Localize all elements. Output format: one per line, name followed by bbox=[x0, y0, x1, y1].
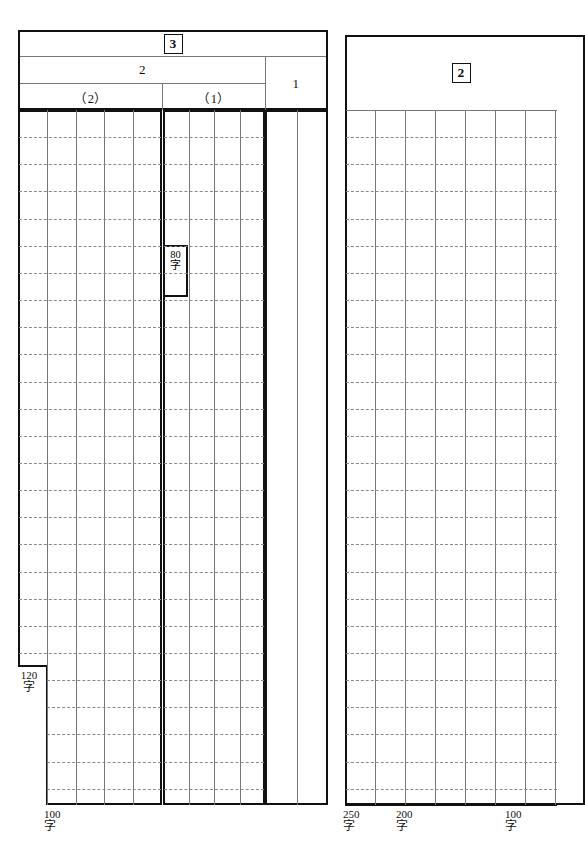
right-dot-17 bbox=[346, 572, 557, 573]
left-sub1-col-rule-1 bbox=[189, 110, 190, 805]
left-sub2-col-rule-4 bbox=[133, 110, 134, 805]
left-sub2-col-rule-1 bbox=[47, 110, 48, 805]
right-col-rule-2 bbox=[405, 110, 406, 805]
left-sub1-dot-9 bbox=[164, 354, 264, 355]
left-sub1-dot-14 bbox=[164, 490, 264, 491]
left-sub2-dot-17 bbox=[19, 572, 161, 573]
left-sub2-col-rule-3 bbox=[104, 110, 105, 805]
right-col-rule-5 bbox=[495, 110, 496, 805]
right-col-rule-3 bbox=[435, 110, 436, 805]
left-sub2-dot-24 bbox=[47, 762, 161, 763]
right-dot-21 bbox=[346, 680, 557, 681]
left-sub2-dot-21 bbox=[47, 680, 161, 681]
left-sub2-dot-18 bbox=[19, 599, 161, 600]
left-sub1-dot-15 bbox=[164, 517, 264, 518]
left-section-1-label: 1 bbox=[293, 76, 300, 92]
left-sub2-dot-15 bbox=[19, 517, 161, 518]
left-sub2-dot-16 bbox=[19, 544, 161, 545]
right-dot-9 bbox=[346, 354, 557, 355]
left-sub1-dot-11 bbox=[164, 409, 264, 410]
right-col-rule-6 bbox=[525, 110, 526, 805]
left-sub1-dot-8 bbox=[164, 327, 264, 328]
right-dot-23 bbox=[346, 734, 557, 735]
left-sub2-dot-13 bbox=[19, 463, 161, 464]
right-dot-1 bbox=[346, 137, 557, 138]
left-sub2-dot-3 bbox=[19, 191, 161, 192]
left-sub2-dot-2 bbox=[19, 164, 161, 165]
left-sub1-dot-10 bbox=[164, 382, 264, 383]
left-sub1-col-rule-2 bbox=[214, 110, 215, 805]
right-dot-8 bbox=[346, 327, 557, 328]
left-sub2-dot-1 bbox=[19, 137, 161, 138]
left-sub2-dot-6 bbox=[19, 273, 161, 274]
left-sub-1-label: （1） bbox=[197, 88, 231, 107]
left-sub1-dot-7 bbox=[164, 300, 264, 301]
left-sub2-dot-23 bbox=[47, 734, 161, 735]
left-sub2-dot-5 bbox=[19, 246, 161, 247]
left-section-1-label-cell: 1 bbox=[266, 57, 326, 110]
left-sub-1-label-cell: （1） bbox=[163, 84, 265, 110]
left-panel-question-number-cell: 3 bbox=[20, 32, 326, 56]
marker-120-ji: 120 字 bbox=[12, 670, 46, 693]
right-dot-4 bbox=[346, 219, 557, 220]
left-sub1-dot-16 bbox=[164, 544, 264, 545]
marker-200-ji: 200 字 bbox=[396, 809, 426, 832]
left-sub1-dot-19 bbox=[164, 626, 264, 627]
left-sub2-dot-4 bbox=[19, 219, 161, 220]
left-sub1-dot-17 bbox=[164, 572, 264, 573]
marker-80-ji-cell: 80 字 bbox=[163, 245, 188, 297]
left-sub1-dot-20 bbox=[164, 653, 264, 654]
marker-100-ji-right: 100 字 bbox=[505, 809, 535, 832]
left-sub2-dot-14 bbox=[19, 490, 161, 491]
left-sub2-dot-9 bbox=[19, 354, 161, 355]
left-sub1-dot-6 bbox=[164, 273, 264, 274]
left-sub1-dot-3 bbox=[164, 191, 264, 192]
right-dot-15 bbox=[346, 517, 557, 518]
marker-250-ji: 250 字 bbox=[343, 809, 373, 832]
left-sub2-dot-7 bbox=[19, 300, 161, 301]
left-grid-step-rule bbox=[18, 665, 48, 668]
left-sub2-dot-12 bbox=[19, 436, 161, 437]
left-sub-2-label: （2） bbox=[74, 88, 108, 107]
left-sub2-dot-22 bbox=[47, 707, 161, 708]
left-sub1-dot-2 bbox=[164, 164, 264, 165]
left-sub2-dot-11 bbox=[19, 409, 161, 410]
left-sub1-dot-1 bbox=[164, 137, 264, 138]
left-sub1-dot-21 bbox=[164, 680, 264, 681]
right-dot-24 bbox=[346, 762, 557, 763]
left-sub1-dot-22 bbox=[164, 707, 264, 708]
right-dot-11 bbox=[346, 409, 557, 410]
right-dot-5 bbox=[346, 246, 557, 247]
marker-80-ji-unit: 字 bbox=[170, 260, 181, 272]
right-panel-question-number-cell: 2 bbox=[347, 37, 575, 109]
left-grid-sub2-upper bbox=[18, 110, 162, 667]
marker-250-ji-unit: 字 bbox=[343, 820, 373, 832]
left-section-2-label-cell: 2 bbox=[20, 57, 265, 83]
left-sub1-dot-18 bbox=[164, 599, 264, 600]
left-sub2-col-rule-2 bbox=[76, 110, 77, 805]
left-sub2-dot-10 bbox=[19, 382, 161, 383]
marker-200-ji-unit: 字 bbox=[396, 820, 426, 832]
left-sub1-dot-12 bbox=[164, 436, 264, 437]
left-sub1-dot-13 bbox=[164, 463, 264, 464]
right-dot-3 bbox=[346, 191, 557, 192]
marker-100-ji-left: 100 字 bbox=[44, 809, 74, 832]
right-dot-7 bbox=[346, 300, 557, 301]
question-number-3-box: 3 bbox=[164, 34, 183, 54]
left-sub2-dot-19 bbox=[19, 626, 161, 627]
left-sec1-col-rule-1 bbox=[297, 110, 298, 805]
right-dot-12 bbox=[346, 436, 557, 437]
left-sub1-dot-24 bbox=[164, 762, 264, 763]
right-dot-22 bbox=[346, 707, 557, 708]
right-col-rule-1 bbox=[375, 110, 376, 805]
right-col-rule-7 bbox=[555, 110, 556, 805]
left-sub2-dot-20 bbox=[19, 653, 161, 654]
left-sub2-dot-25 bbox=[47, 789, 161, 790]
left-sub1-dot-23 bbox=[164, 734, 264, 735]
left-sub-2-label-cell: （2） bbox=[20, 84, 162, 110]
left-sub1-col-rule-3 bbox=[240, 110, 241, 805]
right-col-rule-4 bbox=[465, 110, 466, 805]
right-dot-6 bbox=[346, 273, 557, 274]
right-dot-14 bbox=[346, 490, 557, 491]
